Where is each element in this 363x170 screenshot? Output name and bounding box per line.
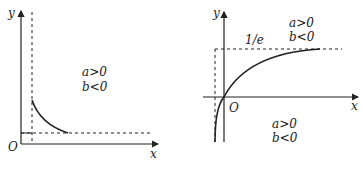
right-top-condition-a: a>0 [289,16,314,30]
left-condition-b: b<0 [82,80,108,94]
right-origin-label: O [229,101,239,115]
right-y-label: y [212,6,220,20]
right-asymptote-label: 1/e [245,33,264,47]
right-bottom-condition-b: b<0 [272,131,298,145]
right-bottom-condition-a: a>0 [272,117,297,131]
left-condition-a: a>0 [82,65,107,79]
left-curve [32,100,68,133]
left-x-label: x [150,147,157,161]
figure: y x O a>0 b<0 y x O 1/e a>0 b<0 a>0 b<0 [0,0,363,170]
left-y-label: y [7,6,15,20]
left-origin-label: O [8,140,18,154]
right-graph: y x O 1/e a>0 b<0 a>0 b<0 [203,6,358,145]
left-graph: y x O a>0 b<0 [7,6,158,161]
right-x-label: x [351,99,358,113]
right-top-condition-b: b<0 [289,30,315,44]
right-curve [215,49,320,142]
